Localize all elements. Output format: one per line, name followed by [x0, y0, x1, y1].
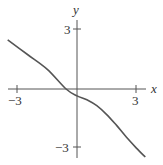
y-tick-label-3: 3 [64, 22, 71, 37]
axes [8, 20, 146, 158]
y-tick-label-neg3: −3 [55, 140, 69, 155]
y-axis-label: y [71, 2, 79, 17]
x-axis-label: x [150, 81, 157, 96]
chart: −3 3 3 −3 x y [0, 0, 163, 165]
x-tick-label-neg3: −3 [8, 93, 22, 108]
x-tick-label-3: 3 [132, 93, 139, 108]
